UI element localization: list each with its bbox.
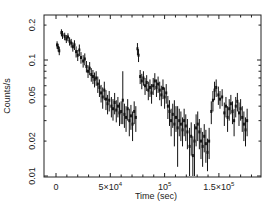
data-points bbox=[56, 29, 248, 176]
data-point bbox=[142, 71, 144, 85]
x-tick-label: 1.5×105 bbox=[203, 181, 235, 192]
data-point bbox=[94, 73, 96, 88]
data-point bbox=[105, 90, 107, 110]
data-point bbox=[214, 82, 216, 101]
light-curve-chart: 05×1041051.5×105 0.010.020.050.10.2 Time… bbox=[0, 0, 273, 211]
data-point bbox=[173, 100, 175, 146]
data-point bbox=[212, 91, 214, 111]
data-point bbox=[246, 109, 248, 137]
data-point bbox=[208, 128, 210, 159]
data-point bbox=[190, 122, 192, 155]
y-tick-label: 0.05 bbox=[27, 86, 37, 104]
data-point bbox=[165, 84, 167, 104]
data-point bbox=[186, 119, 188, 149]
data-point bbox=[80, 52, 82, 64]
data-point bbox=[110, 97, 112, 117]
y-axis-title: Counts/s bbox=[2, 78, 12, 114]
data-point bbox=[123, 104, 125, 128]
data-point bbox=[167, 96, 169, 119]
plot-frame bbox=[44, 15, 261, 177]
data-point bbox=[185, 114, 187, 141]
data-point bbox=[238, 103, 240, 126]
data-point bbox=[210, 101, 212, 124]
y-tick-label: 0.01 bbox=[27, 167, 37, 185]
data-point bbox=[236, 93, 238, 112]
data-point bbox=[130, 105, 132, 130]
data-point bbox=[90, 68, 92, 82]
x-tick-label: 5×104 bbox=[98, 181, 122, 192]
data-point bbox=[193, 124, 195, 176]
x-tick-label: 0 bbox=[53, 182, 58, 192]
data-point bbox=[221, 89, 223, 106]
data-point bbox=[73, 40, 75, 50]
data-point bbox=[144, 78, 146, 95]
data-point bbox=[92, 70, 94, 84]
y-tick-label: 0.2 bbox=[27, 19, 37, 32]
x-axis-title: Time (sec) bbox=[135, 191, 177, 201]
data-point bbox=[197, 111, 199, 141]
data-point bbox=[108, 91, 110, 111]
data-point bbox=[84, 53, 86, 65]
data-point bbox=[183, 109, 185, 137]
y-tick-label: 0.1 bbox=[27, 54, 37, 67]
y-tick-label: 0.02 bbox=[27, 132, 37, 150]
data-point bbox=[147, 82, 149, 101]
data-point bbox=[82, 55, 84, 67]
data-point bbox=[133, 101, 135, 124]
data-point bbox=[128, 109, 130, 137]
data-point bbox=[164, 87, 166, 108]
data-point bbox=[215, 79, 217, 97]
data-point bbox=[122, 71, 124, 124]
data-point bbox=[178, 109, 180, 137]
data-point bbox=[177, 106, 179, 167]
data-point bbox=[203, 124, 205, 152]
data-point bbox=[217, 87, 219, 105]
data-point bbox=[180, 111, 182, 141]
data-point bbox=[120, 101, 122, 124]
